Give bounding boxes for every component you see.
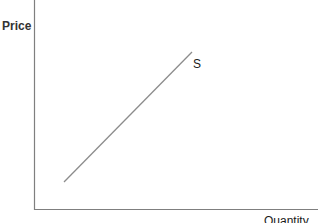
supply-curve-label: S [193,57,201,71]
supply-diagram [0,0,318,223]
y-axis-label: Price [2,19,31,33]
supply-curve [64,52,192,182]
x-axis-label: Quantity [264,214,309,223]
